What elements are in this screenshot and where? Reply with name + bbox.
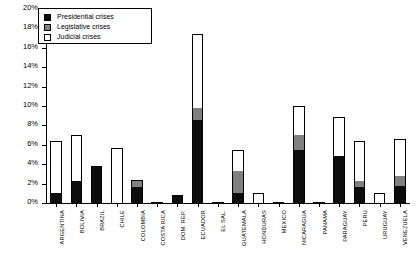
table-row[interactable] bbox=[91, 166, 103, 203]
bar-segment-judicial bbox=[192, 34, 204, 108]
x-axis-tick-mark bbox=[218, 203, 219, 207]
y-axis-tick-label: 4% bbox=[27, 158, 38, 167]
bar-segment-presidential bbox=[71, 181, 83, 203]
y-axis-tick-label: 10% bbox=[23, 100, 38, 109]
x-axis-tick-label: GUATEMALA bbox=[241, 210, 247, 246]
x-axis-tick-label: PERU bbox=[362, 210, 368, 226]
y-axis-tick-label: 6% bbox=[27, 139, 38, 148]
table-row[interactable] bbox=[232, 150, 244, 203]
bar-segment-presidential bbox=[192, 120, 204, 203]
legend-item-presidential: Presidential crises bbox=[44, 12, 147, 22]
x-axis-tick-label: COLOMBIA bbox=[140, 210, 146, 241]
bar-slot bbox=[374, 9, 386, 203]
bar-segment-presidential bbox=[91, 166, 103, 203]
x-axis-tick-mark bbox=[157, 203, 158, 207]
x-axis-tick-mark bbox=[279, 203, 280, 207]
x-axis-tick-mark bbox=[238, 203, 239, 207]
x-axis-tick-mark bbox=[400, 203, 401, 207]
table-row[interactable] bbox=[293, 106, 305, 203]
bar-segment-legislative bbox=[354, 181, 366, 188]
bar-segment-presidential bbox=[354, 187, 366, 203]
bar-segment-legislative bbox=[394, 176, 406, 186]
x-axis-tick-mark bbox=[339, 203, 340, 207]
y-axis-tick-label: 8% bbox=[27, 119, 38, 128]
bar-segment-presidential bbox=[293, 150, 305, 203]
bar-slot bbox=[151, 9, 163, 203]
y-axis-tick-label: 18% bbox=[23, 22, 38, 31]
bar-segment-presidential bbox=[232, 193, 244, 203]
bar-segment-presidential bbox=[131, 187, 143, 203]
table-row[interactable] bbox=[172, 195, 184, 203]
x-axis-tick-mark bbox=[76, 203, 77, 207]
table-row[interactable] bbox=[111, 148, 123, 203]
x-axis-tick-label: EL SAL. bbox=[220, 210, 226, 232]
y-axis-tick-label: 2% bbox=[27, 178, 38, 187]
bar-slot bbox=[212, 9, 224, 203]
bar-segment-judicial bbox=[293, 106, 305, 135]
bar-segment-presidential bbox=[394, 186, 406, 203]
bar-slot bbox=[232, 9, 244, 203]
bar-segment-presidential bbox=[333, 156, 345, 203]
x-axis-tick-mark bbox=[299, 203, 300, 207]
stacked-bar-chart: 0%2%4%6%8%10%12%14%16%18%20% ARGENTINABO… bbox=[0, 0, 417, 264]
x-axis-tick-label: BOLIVIA bbox=[79, 210, 85, 233]
x-axis-tick-label: NICARAGUA bbox=[301, 210, 307, 245]
x-axis-tick-label: VENEZUELA bbox=[402, 210, 408, 245]
chart-legend: Presidential crisesLegislative crisesJud… bbox=[38, 8, 152, 44]
bar-segment-judicial bbox=[111, 148, 123, 203]
table-row[interactable] bbox=[71, 135, 83, 203]
legend-swatch-presidential-icon bbox=[44, 14, 51, 21]
x-axis-ticks: ARGENTINABOLIVIABRAZILCHILECOLOMBIACOSTA… bbox=[46, 203, 410, 264]
table-row[interactable] bbox=[192, 34, 204, 203]
bar-segment-presidential bbox=[172, 195, 184, 203]
x-axis-tick-mark bbox=[380, 203, 381, 207]
x-axis-tick-label: ARGENTINA bbox=[59, 210, 65, 244]
legend-item-label: Presidential crises bbox=[57, 12, 114, 22]
bar-segment-judicial bbox=[71, 135, 83, 181]
legend-swatch-judicial-icon bbox=[44, 34, 51, 41]
bar-segment-presidential bbox=[50, 193, 62, 203]
x-axis-tick-label: PARAGUAY bbox=[342, 210, 348, 242]
bar-segment-judicial bbox=[394, 139, 406, 176]
bar-slot bbox=[273, 9, 285, 203]
x-axis-tick-mark bbox=[177, 203, 178, 207]
x-axis-tick-label: ECUADOR bbox=[200, 210, 206, 239]
table-row[interactable] bbox=[394, 139, 406, 203]
bar-segment-legislative bbox=[293, 135, 305, 150]
legend-item-label: Legislative crises bbox=[57, 22, 110, 32]
table-row[interactable] bbox=[131, 180, 143, 203]
bar-slot bbox=[313, 9, 325, 203]
x-axis-tick-mark bbox=[137, 203, 138, 207]
x-axis-tick-label: CHILE bbox=[119, 210, 125, 227]
bar-segment-legislative bbox=[232, 171, 244, 193]
bar-slot bbox=[394, 9, 406, 203]
x-axis-tick-label: URUGUAY bbox=[382, 210, 388, 239]
table-row[interactable] bbox=[50, 141, 62, 203]
y-axis-tick-label: 20% bbox=[23, 3, 38, 12]
legend-swatch-legislative-icon bbox=[44, 24, 51, 31]
bar-segment-legislative bbox=[192, 108, 204, 120]
x-axis-tick-label: HONDURAS bbox=[261, 210, 267, 244]
x-axis-tick-mark bbox=[258, 203, 259, 207]
x-axis-tick-label: MEXICO bbox=[281, 210, 287, 233]
x-axis-tick-mark bbox=[319, 203, 320, 207]
bar-segment-judicial bbox=[354, 141, 366, 181]
x-axis-tick-label: COSTA RICA bbox=[160, 210, 166, 245]
table-row[interactable] bbox=[253, 193, 265, 203]
x-axis-tick-mark bbox=[56, 203, 57, 207]
table-row[interactable] bbox=[354, 141, 366, 203]
x-axis-tick-mark bbox=[359, 203, 360, 207]
bar-segment-judicial bbox=[374, 193, 386, 203]
y-axis-tick-label: 12% bbox=[23, 81, 38, 90]
bar-slot bbox=[172, 9, 184, 203]
bar-slot bbox=[253, 9, 265, 203]
bar-segment-legislative bbox=[131, 180, 143, 187]
bar-segment-judicial bbox=[50, 141, 62, 193]
table-row[interactable] bbox=[374, 193, 386, 203]
y-axis-tick-label: 16% bbox=[23, 42, 38, 51]
legend-item-label: Judicial crises bbox=[57, 32, 101, 42]
table-row[interactable] bbox=[333, 117, 345, 203]
x-axis-tick-label: BRAZIL bbox=[99, 210, 105, 231]
x-axis-tick-label: PANAMA bbox=[322, 210, 328, 234]
bar-slot bbox=[354, 9, 366, 203]
